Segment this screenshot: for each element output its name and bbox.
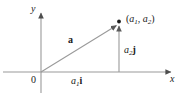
point-coordinates-label: (a1, a2) [126, 14, 155, 24]
vector-a-label: a [68, 35, 73, 45]
paren-close: ) [151, 13, 154, 24]
vector-decomposition-figure: y x 0 a a1i a2j (a1, a2) [0, 0, 183, 109]
y-component-unit-vector: j [133, 44, 136, 55]
origin-label: 0 [31, 75, 36, 85]
terminal-point-dot [117, 20, 121, 24]
y-component-subscript: 2 [129, 49, 133, 57]
x-component-label: a1i [71, 76, 82, 86]
x-component-subscript: 1 [76, 80, 80, 88]
point-second-subscript: 2 [148, 18, 152, 26]
figure-canvas [0, 0, 183, 109]
y-component-label: a2j [124, 45, 136, 55]
y-axis-label: y [31, 4, 35, 14]
vector-a-arrow [41, 26, 117, 73]
point-first-subscript: 1 [134, 18, 138, 26]
x-axis-label: x [170, 74, 174, 84]
